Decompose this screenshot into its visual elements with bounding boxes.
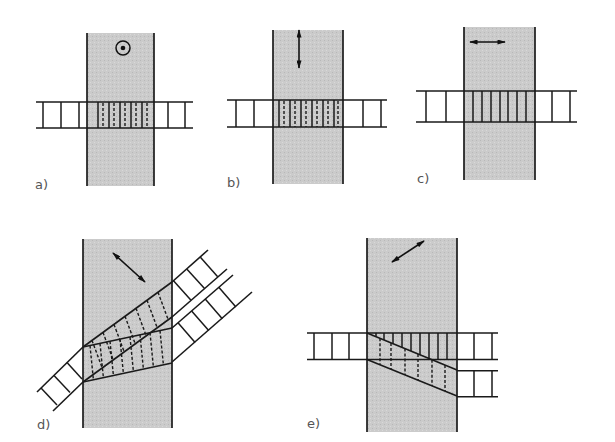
panel-label-b: b) (227, 175, 240, 190)
rail-bottom-outside (172, 292, 252, 362)
rung (174, 281, 191, 300)
rail-top-outside (172, 250, 208, 282)
rung (178, 323, 195, 343)
rung (41, 388, 57, 405)
rail-bottom-outside (172, 269, 227, 317)
panel-label-c: c) (417, 171, 429, 186)
birefringence-diagram: a) b) (0, 0, 615, 442)
panel-d: d) (37, 239, 252, 432)
panel-c: c) (416, 27, 577, 186)
panel-b: b) (227, 30, 387, 190)
panel-label-d: d) (37, 417, 50, 432)
panel-label-a: a) (35, 177, 48, 192)
rung (192, 311, 209, 331)
crystal-band (83, 239, 172, 428)
rung (219, 287, 236, 307)
rung (205, 299, 222, 319)
panel-label-e: e) (307, 416, 320, 431)
panel-e: e) (307, 238, 498, 432)
rung (67, 363, 82, 379)
rung (54, 375, 70, 392)
rail-bottom (53, 382, 83, 411)
rail-top (37, 347, 83, 392)
crystal-band (367, 238, 457, 432)
incident-ladder (37, 347, 83, 411)
rung (187, 269, 204, 288)
panel-a: a) (35, 33, 193, 192)
rail-top-outside (172, 275, 233, 328)
ladder-beam (36, 102, 193, 128)
rung (200, 257, 217, 276)
